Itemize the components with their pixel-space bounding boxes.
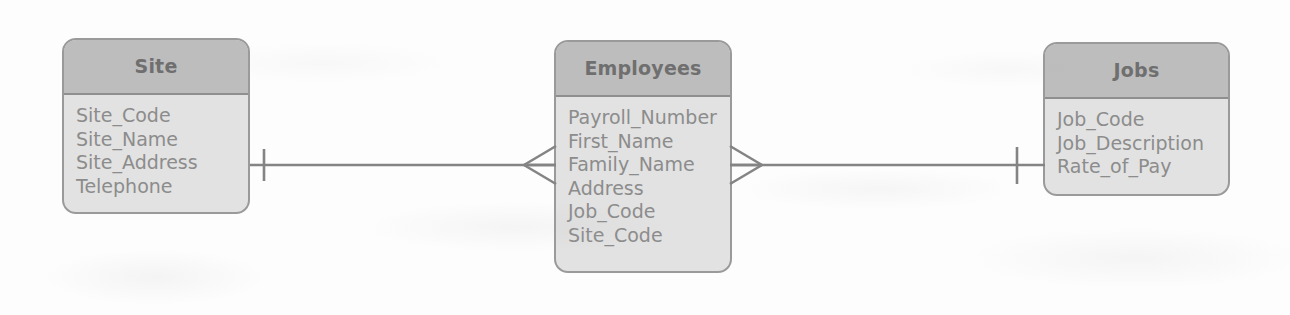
entity-jobs-title: Jobs (1114, 59, 1160, 81)
attribute-row: Rate_of_Pay (1057, 155, 1228, 179)
attribute-row: Site_Code (568, 224, 730, 248)
attribute-row: Job_Description (1057, 132, 1228, 156)
attribute-row: Telephone (76, 175, 248, 199)
attribute-row: Payroll_Number (568, 106, 730, 130)
entity-employees-title: Employees (584, 57, 701, 79)
entity-site[interactable]: Site Site_Code Site_Name Site_Address Te… (62, 38, 250, 214)
attribute-row: Site_Code (76, 104, 248, 128)
relationship-employees-jobs[interactable] (730, 146, 1045, 184)
cardinality-many-crowsfoot-jobs-side (730, 146, 762, 184)
attribute-row: Site_Address (76, 151, 248, 175)
entity-employees[interactable]: Employees Payroll_Number First_Name Fami… (554, 40, 732, 273)
attribute-row: Job_Code (568, 200, 730, 224)
relationship-site-employees[interactable] (250, 146, 556, 184)
entity-employees-attributes: Payroll_Number First_Name Family_Name Ad… (556, 97, 730, 247)
attribute-row: Site_Name (76, 128, 248, 152)
entity-jobs-attributes: Job_Code Job_Description Rate_of_Pay (1045, 99, 1228, 179)
cardinality-many-crowsfoot-employees (524, 146, 556, 184)
attribute-row: Job_Code (1057, 108, 1228, 132)
entity-jobs-header: Jobs (1045, 44, 1228, 99)
entity-employees-header: Employees (556, 42, 730, 97)
er-diagram-canvas: Site Site_Code Site_Name Site_Address Te… (0, 0, 1290, 315)
entity-site-header: Site (64, 40, 248, 95)
attribute-row: Address (568, 177, 730, 201)
entity-site-title: Site (135, 55, 178, 77)
attribute-row: First_Name (568, 130, 730, 154)
attribute-row: Family_Name (568, 153, 730, 177)
entity-jobs[interactable]: Jobs Job_Code Job_Description Rate_of_Pa… (1043, 42, 1230, 196)
entity-site-attributes: Site_Code Site_Name Site_Address Telepho… (64, 95, 248, 198)
